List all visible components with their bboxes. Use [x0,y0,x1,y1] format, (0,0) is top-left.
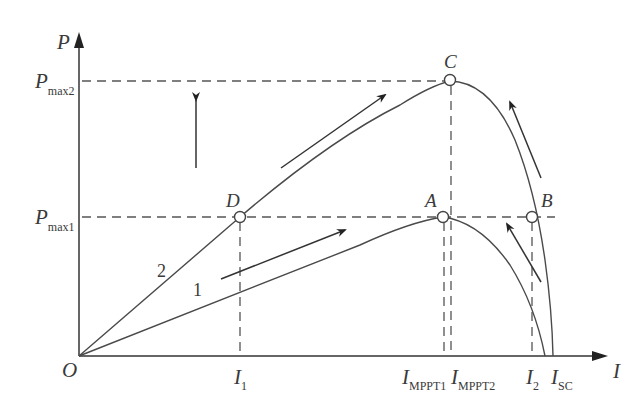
x-axis-arrowhead [592,351,608,361]
xtick-isc: ISC [550,365,573,393]
arrow-along-curve-2 [281,95,385,168]
label-curve-2: 2 [157,261,166,281]
label-a: A [423,190,437,211]
point-d [235,212,246,223]
x-axis-label: I [612,359,621,383]
y-axis-arrowhead [74,32,84,48]
point-b [527,212,538,223]
curve-2 [79,81,553,356]
ytick-pmax1: Pmax1 [34,205,75,234]
ytick-pmax2: Pmax2 [34,69,75,98]
xtick-i1: I1 [233,365,247,393]
xtick-impp2: IMPPT2 [450,365,495,393]
label-b: B [541,190,553,211]
point-c [445,75,456,86]
arrow-to-b [507,224,541,282]
curve-1 [79,217,545,356]
origin-label: O [62,358,77,382]
y-axis-label: P [56,30,70,54]
label-curve-1: 1 [193,280,202,300]
pi-curve-diagram: C A D B 2 1 P I O Pmax2 Pmax1 I1 IMPPT1 … [0,0,634,414]
label-c: C [444,51,457,72]
xtick-impp1: IMPPT1 [401,365,446,393]
xtick-i2: I2 [525,365,539,393]
label-d: D [225,190,240,211]
point-a [438,212,449,223]
